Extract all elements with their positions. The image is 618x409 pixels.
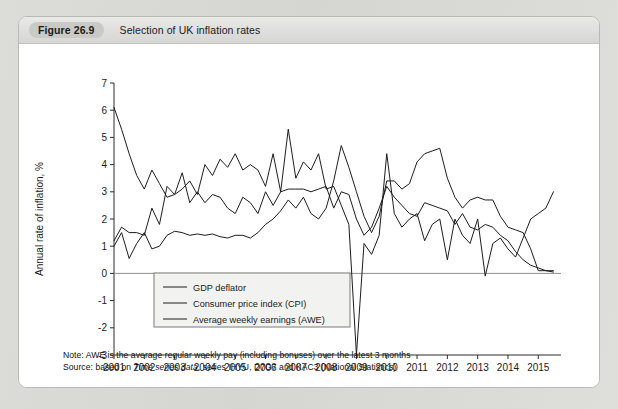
y-tick-label: 5 <box>101 132 107 143</box>
note-line: Note: AWE is the average regular weekly … <box>63 350 411 362</box>
source-prefix: Source: based on <box>63 362 134 372</box>
figure-number-badge: Figure 26.9 <box>29 22 104 39</box>
x-tick-label: 2012 <box>436 362 459 373</box>
y-tick-label: -1 <box>98 295 107 306</box>
y-tick-label: 4 <box>101 159 107 170</box>
y-tick-label: -2 <box>98 322 107 333</box>
y-tick-label: 2 <box>101 214 107 225</box>
x-tick-label: 2015 <box>527 362 550 373</box>
y-tick-label: 0 <box>101 268 107 279</box>
y-tick-label: 6 <box>101 105 107 116</box>
y-axis: 76543210-1-2-3 <box>98 78 114 361</box>
x-tick-label: 2013 <box>467 362 490 373</box>
source-suffix: , series IHYU, D7G7 and KAC3 (National S… <box>198 362 396 372</box>
x-tick-label: 2014 <box>497 362 520 373</box>
page-canvas: Figure 26.9 Selection of UK inflation ra… <box>0 0 618 409</box>
chart-plot-area: 76543210-1-2-3 2001200220032004200520062… <box>19 44 599 388</box>
series-line <box>114 146 553 272</box>
figure-notes: Note: AWE is the average regular weekly … <box>63 350 411 373</box>
source-line: Source: based on Time series data, serie… <box>63 362 411 374</box>
figure-caption-bar: Figure 26.9 Selection of UK inflation ra… <box>19 17 599 44</box>
y-axis-title-text: Annual rate of inflation, % <box>34 162 45 276</box>
figure-title: Selection of UK inflation rates <box>120 24 261 36</box>
y-tick-label: 1 <box>101 241 107 252</box>
inflation-line-chart: 76543210-1-2-3 2001200220032004200520062… <box>19 44 600 388</box>
y-axis-title: Annual rate of inflation, % <box>34 162 45 276</box>
y-tick-label: 3 <box>101 186 107 197</box>
figure-card: Figure 26.9 Selection of UK inflation ra… <box>18 16 600 388</box>
legend-item-label[interactable]: Average weekly earnings (AWE) <box>193 315 325 325</box>
legend-item-label[interactable]: GDP deflator <box>193 283 246 293</box>
chart-legend[interactable]: GDP deflatorConsumer price index (CPI)Av… <box>154 273 350 327</box>
source-italic-title: Time series data <box>134 362 198 372</box>
legend-item-label[interactable]: Consumer price index (CPI) <box>193 299 306 309</box>
y-tick-label: 7 <box>101 78 107 89</box>
